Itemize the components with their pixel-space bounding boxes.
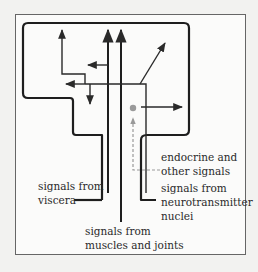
- label-viscera-line2: viscera: [37, 194, 76, 206]
- signals-diagram: signals from viscera signals from muscle…: [0, 0, 258, 272]
- label-neurotransmitter-2: neurotransmitter: [161, 196, 254, 208]
- label-viscera-2: viscera: [37, 194, 76, 206]
- label-muscles-line1: signals from: [85, 225, 151, 237]
- label-neuro-line2: neurotransmitter: [161, 196, 254, 208]
- label-neurotransmitter-3: nuclei: [161, 210, 194, 222]
- label-viscera: signals from: [38, 180, 104, 192]
- label-endocrine-line1: endocrine and: [161, 151, 238, 163]
- label-viscera-line1: signals from: [38, 180, 104, 192]
- figure-frame: [16, 15, 246, 255]
- signal-dot-icon: [130, 105, 136, 111]
- label-neurotransmitter: signals from: [161, 182, 227, 194]
- label-endocrine-line2: other signals: [161, 165, 230, 177]
- label-endocrine: endocrine and: [161, 151, 238, 163]
- label-muscles-2: muscles and joints: [85, 239, 184, 251]
- label-endocrine-2: other signals: [161, 165, 230, 177]
- label-neuro-line3: nuclei: [161, 210, 194, 222]
- label-muscles: signals from: [85, 225, 151, 237]
- label-neuro-line1: signals from: [161, 182, 227, 194]
- label-muscles-line2: muscles and joints: [85, 239, 184, 251]
